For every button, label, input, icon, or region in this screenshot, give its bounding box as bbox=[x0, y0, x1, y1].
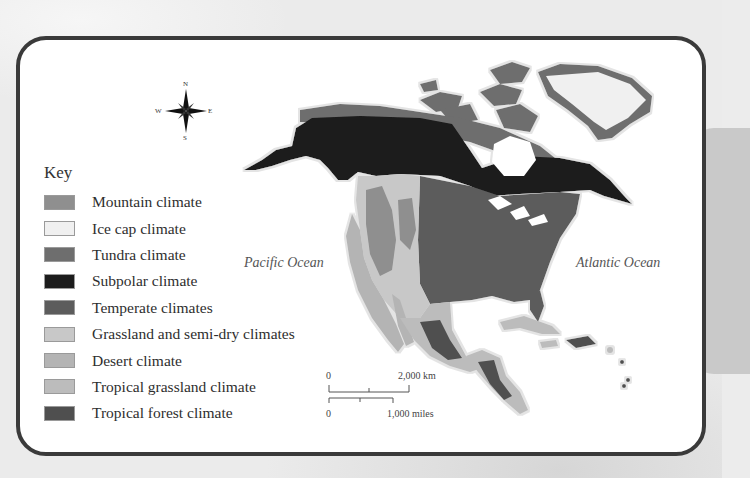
compass-rose: N S W E bbox=[155, 80, 215, 144]
key-label: Tundra climate bbox=[92, 246, 186, 264]
swatch-grassland bbox=[44, 327, 75, 342]
swatch-subpolar bbox=[44, 274, 75, 289]
swatch-tundra bbox=[44, 247, 75, 262]
scale-bar: 0 2,000 km 0 1,000 miles bbox=[323, 370, 453, 425]
key-label: Mountain climate bbox=[92, 193, 202, 211]
compass-star-icon bbox=[155, 80, 215, 144]
key-label: Temperate climates bbox=[92, 299, 213, 317]
swatch-desert bbox=[44, 353, 75, 368]
key-label: Desert climate bbox=[92, 352, 182, 370]
key-label: Tropical forest climate bbox=[92, 404, 233, 422]
key-label: Ice cap climate bbox=[92, 220, 186, 238]
key-label: Tropical grassland climate bbox=[92, 378, 256, 396]
swatch-tropical-forest bbox=[44, 406, 75, 421]
scale-lines-icon bbox=[323, 370, 453, 425]
swatch-ice-cap bbox=[44, 221, 75, 236]
swatch-tropical-grassland bbox=[44, 379, 75, 394]
swatch-temperate bbox=[44, 300, 75, 315]
key-label: Subpolar climate bbox=[92, 272, 197, 290]
swatch-mountain bbox=[44, 195, 75, 210]
